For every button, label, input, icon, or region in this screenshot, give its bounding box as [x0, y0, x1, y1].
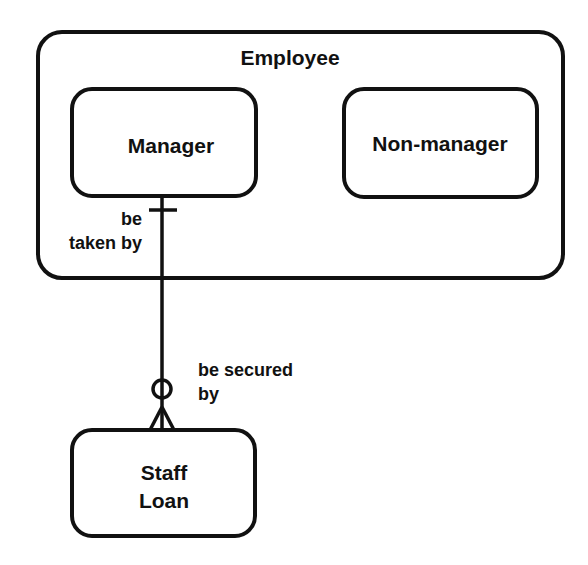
entity-staff-loan-label-line1: Staff	[141, 461, 189, 484]
entity-non-manager-label: Non-manager	[372, 132, 507, 155]
entity-non-manager[interactable]: Non-manager	[344, 89, 537, 197]
svg-text:by: by	[198, 384, 219, 404]
relationship-label-from: be taken by	[69, 209, 142, 253]
entity-employee-label: Employee	[240, 46, 339, 69]
entity-manager-label: Manager	[128, 134, 214, 157]
entity-manager[interactable]: Manager	[72, 89, 256, 196]
relationship-line[interactable]	[149, 196, 177, 430]
entity-staff-loan-label-line2: Loan	[139, 489, 189, 512]
entity-staff-loan[interactable]: Staff Loan	[72, 430, 255, 536]
svg-text:be secured: be secured	[198, 360, 293, 380]
relationship-label-to: be secured by	[198, 360, 293, 404]
svg-text:taken by: taken by	[69, 233, 142, 253]
svg-text:be: be	[121, 209, 142, 229]
er-diagram: Employee Manager Non-manager be taken by…	[0, 0, 588, 565]
